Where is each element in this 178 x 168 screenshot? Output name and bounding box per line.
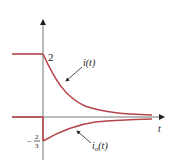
label-io: io(t) (92, 140, 108, 153)
label-t: t (158, 123, 161, 134)
arrow-i (66, 67, 82, 81)
label-neg-sign: − (27, 137, 32, 146)
label-io-rest: (t) (98, 140, 108, 152)
label-i: i(t) (83, 57, 96, 69)
chart: 2 − 2 3 t i(t) io(t) (0, 0, 178, 168)
label-neg-den: 3 (35, 142, 39, 150)
label-neg-num: 2 (35, 133, 39, 141)
io-curve-decay (43, 119, 152, 141)
arrow-io (77, 131, 91, 143)
i-curve-decay (43, 54, 152, 115)
label-two: 2 (48, 51, 54, 63)
